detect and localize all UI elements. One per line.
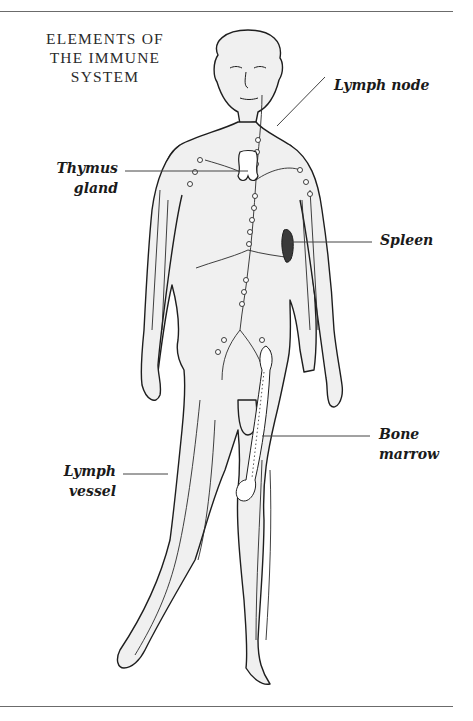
- label-thymus-gland: Thymus gland: [30, 158, 118, 198]
- label-bone-marrow: Bone marrow: [379, 424, 439, 464]
- label-spleen: Spleen: [380, 230, 433, 250]
- thymus-gland: [238, 151, 258, 181]
- label-thymus-line-1: Thymus: [30, 158, 118, 178]
- label-thymus-line-2: gland: [30, 178, 118, 198]
- leader-line-lymph-node: [277, 77, 325, 126]
- spleen: [282, 229, 293, 262]
- label-lymph-vessel-line-1: Lymph: [30, 461, 116, 481]
- label-lymph-node: Lymph node: [334, 75, 429, 95]
- torso: [117, 122, 316, 684]
- human-figure-illustration: [0, 0, 473, 721]
- label-bone-marrow-line-2: marrow: [379, 444, 439, 464]
- label-lymph-vessel: Lymph vessel: [30, 461, 116, 501]
- head: [214, 30, 282, 124]
- label-bone-marrow-line-1: Bone: [379, 424, 439, 444]
- label-lymph-vessel-line-2: vessel: [30, 481, 116, 501]
